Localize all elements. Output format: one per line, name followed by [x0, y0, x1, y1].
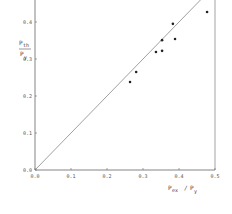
x-tick-label: 0.4: [174, 173, 183, 179]
x-tick-label: 0.5: [210, 173, 219, 179]
y-tick-label: 0.2: [23, 93, 32, 99]
data-point: [161, 39, 164, 42]
svg-text:y: y: [194, 188, 197, 195]
x-tick-label: 0.1: [66, 173, 75, 179]
x-tick-label: 0.3: [138, 173, 147, 179]
y-tick-label: 0.1: [23, 130, 32, 136]
axes: [35, 0, 215, 170]
reference-line: [35, 0, 201, 170]
data-points: [129, 11, 209, 84]
data-point: [155, 51, 158, 54]
data-point: [161, 50, 164, 53]
data-point: [172, 23, 175, 26]
x-tick-label: 0.0: [30, 173, 39, 179]
data-point: [174, 38, 177, 41]
y-tick-label: 0.0: [23, 167, 32, 173]
x-axis-label: P ex / P y: [168, 184, 197, 195]
svg-text:/: /: [184, 184, 188, 191]
data-point: [135, 71, 138, 74]
scatter-chart: 0.00.10.20.30.40.50.00.10.20.30.4 P th P…: [0, 0, 232, 214]
data-point: [206, 11, 209, 14]
svg-text:th: th: [23, 42, 29, 48]
x-tick-label: 0.2: [102, 173, 111, 179]
y-equals-x-line: [35, 0, 201, 170]
y-tick-label: 0.4: [23, 19, 32, 25]
svg-text:ex: ex: [172, 187, 178, 193]
svg-text:y: y: [24, 54, 27, 61]
tick-marks: 0.00.10.20.30.40.50.00.10.20.30.4: [23, 19, 220, 179]
data-point: [129, 81, 132, 84]
